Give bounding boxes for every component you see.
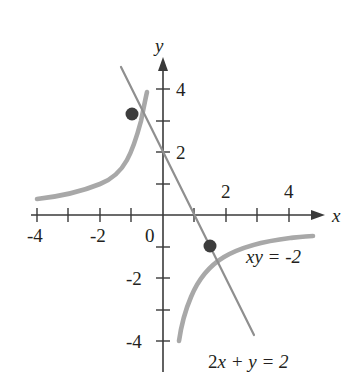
x-axis bbox=[31, 210, 325, 220]
line-equation-coefficient: 2 bbox=[208, 351, 218, 372]
intersection-point-1 bbox=[126, 108, 139, 121]
x-tick-label-4: 4 bbox=[284, 182, 294, 201]
figure-container: x y -4 -2 0 2 4 4 2 -2 -4 xy = -2 2x + y… bbox=[0, 0, 355, 386]
x-tick-label-2: 2 bbox=[221, 182, 231, 201]
y-axis-arrowhead bbox=[158, 57, 168, 71]
y-tick-label-4: 4 bbox=[176, 80, 186, 99]
y-axis-label: y bbox=[155, 36, 163, 55]
y-tick-label-2: 2 bbox=[176, 143, 186, 162]
x-tick-label-neg2: -2 bbox=[90, 226, 106, 245]
x-tick-label-neg4: -4 bbox=[27, 226, 43, 245]
x-tick-label-zero: 0 bbox=[145, 226, 155, 245]
y-tick-label-neg4: -4 bbox=[126, 332, 142, 351]
x-axis-label: x bbox=[332, 206, 340, 225]
y-tick-label-neg2: -2 bbox=[126, 269, 142, 288]
line-equation-label: 2x + y = 2 bbox=[208, 352, 289, 371]
x-axis-arrowhead bbox=[311, 210, 325, 220]
hyperbola-equation-label: xy = -2 bbox=[246, 247, 301, 266]
graph-canvas bbox=[0, 0, 355, 386]
intersection-point-2 bbox=[204, 240, 217, 253]
line-equation-body: x + y = 2 bbox=[218, 351, 289, 372]
line-2x-plus-y-equals-2 bbox=[121, 67, 254, 335]
